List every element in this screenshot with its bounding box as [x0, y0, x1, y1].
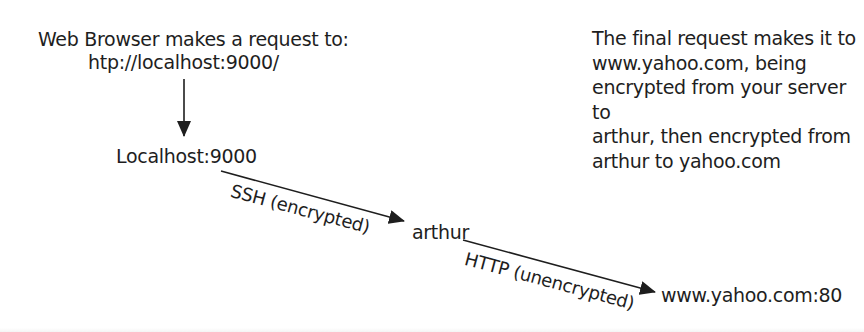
browser-request-url: htp://localhost:9000/	[88, 50, 279, 74]
note-line: encrypted from your server to	[592, 75, 862, 124]
node-localhost: Localhost:9000	[116, 144, 257, 168]
note-line: arthur, then encrypted from	[592, 124, 862, 149]
scan-artifact-band	[0, 328, 864, 332]
explanation-note: The final request makes it to www.yahoo.…	[592, 26, 862, 173]
note-line: www.yahoo.com, being	[592, 51, 862, 76]
browser-request-line1: Web Browser makes a request to:	[38, 27, 349, 51]
node-arthur: arthur	[412, 220, 469, 244]
note-line: arthur to yahoo.com	[592, 149, 862, 174]
note-line: The final request makes it to	[592, 26, 862, 51]
node-yahoo: www.yahoo.com:80	[661, 283, 842, 307]
